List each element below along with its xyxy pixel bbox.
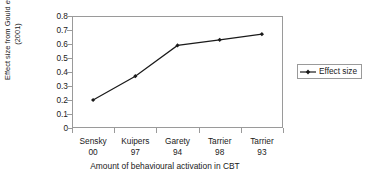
y-axis-tick-label: 0.1 bbox=[44, 110, 68, 118]
x-axis-category-label: Kuipers97 bbox=[114, 136, 156, 160]
legend-label-effect-size: Effect size bbox=[319, 67, 357, 76]
y-axis-tick-label: 0.4 bbox=[44, 68, 68, 76]
x-axis-category-name: Garety bbox=[156, 136, 198, 147]
x-axis-category-year: 97 bbox=[114, 147, 156, 158]
legend-line-marker-icon bbox=[300, 68, 316, 76]
y-axis-tick-label: 0.8 bbox=[44, 12, 68, 20]
x-axis-category-label: Tarrier98 bbox=[199, 136, 241, 160]
y-axis-title-line2: (2001) bbox=[13, 23, 23, 45]
y-axis-tick-mark bbox=[67, 58, 72, 59]
x-axis-category-name: Sensky bbox=[72, 136, 114, 147]
y-axis-tick-mark bbox=[67, 30, 72, 31]
y-axis-tick-mark bbox=[67, 72, 72, 73]
chart-figure: Effect size from Gould et al. (2001) 0.8… bbox=[0, 0, 375, 185]
x-axis-category-year: 98 bbox=[199, 147, 241, 158]
y-axis-title-line1-italic: et al. bbox=[3, 0, 12, 4]
x-axis-tick-mark bbox=[72, 128, 73, 133]
x-axis-tick-mark bbox=[114, 128, 115, 133]
data-point-marker bbox=[260, 32, 264, 36]
chart-legend[interactable]: Effect size bbox=[297, 64, 362, 79]
series-markers bbox=[91, 32, 264, 102]
y-axis-tick-mark bbox=[67, 100, 72, 101]
x-axis-title: Amount of behavioural activation in CBT bbox=[40, 161, 290, 171]
y-axis-tick-label: 0.7 bbox=[44, 26, 68, 34]
x-axis-category-label: Tarrier93 bbox=[241, 136, 283, 160]
data-point-marker bbox=[218, 38, 222, 42]
x-axis-category-name: Tarrier bbox=[199, 136, 241, 147]
x-axis-tick-mark bbox=[283, 128, 284, 133]
x-axis-category-name: Kuipers bbox=[114, 136, 156, 147]
y-axis-title-line1: Effect size from Gould et al. bbox=[3, 0, 13, 80]
x-axis-category-year: 00 bbox=[72, 147, 114, 158]
x-axis-category-label: Sensky00 bbox=[72, 136, 114, 160]
x-axis-category-name: Tarrier bbox=[241, 136, 283, 147]
x-axis-tick-mark bbox=[156, 128, 157, 133]
y-axis-tick-mark bbox=[67, 16, 72, 17]
x-axis-tick-mark bbox=[241, 128, 242, 133]
x-axis-tick-mark bbox=[199, 128, 200, 133]
y-axis-tick-label: 0.6 bbox=[44, 40, 68, 48]
y-axis-tick-label: 0.2 bbox=[44, 96, 68, 104]
y-axis-tick-label: 0.3 bbox=[44, 82, 68, 90]
y-axis-title: Effect size from Gould et al. (2001) bbox=[0, 0, 26, 92]
y-axis-tick-mark bbox=[67, 114, 72, 115]
y-axis-tick-mark bbox=[67, 44, 72, 45]
x-axis-category-year: 94 bbox=[156, 147, 198, 158]
y-axis-title-line1-text: Effect size from Gould bbox=[3, 4, 12, 80]
y-axis-tick-labels: 0.80.70.60.50.40.30.20.10 bbox=[42, 0, 68, 185]
x-axis-tick-labels: Sensky00Kuipers97Garety94Tarrier98Tarrie… bbox=[72, 136, 283, 160]
y-axis-tick-label: 0.5 bbox=[44, 54, 68, 62]
x-axis-category-label: Garety94 bbox=[156, 136, 198, 160]
x-axis-category-year: 93 bbox=[241, 147, 283, 158]
data-series-effect-size bbox=[72, 16, 283, 128]
y-axis-tick-label: 0 bbox=[44, 124, 68, 132]
y-axis-tick-mark bbox=[67, 86, 72, 87]
